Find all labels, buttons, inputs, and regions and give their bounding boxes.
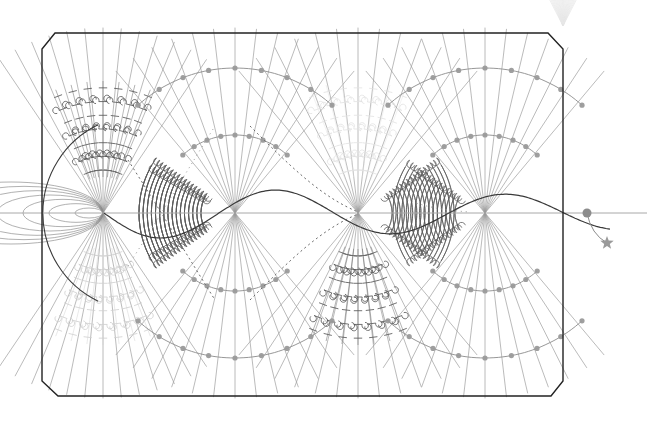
arc-node-dot xyxy=(497,287,502,292)
ray-line xyxy=(192,213,235,393)
arc-node-dot xyxy=(232,355,237,360)
barb-curl xyxy=(321,318,327,324)
arc-node-dot xyxy=(454,138,459,143)
ray-line xyxy=(85,29,103,213)
ray-line xyxy=(235,213,318,378)
arc-node-dot xyxy=(135,103,140,108)
arc-node-dot xyxy=(284,75,289,80)
barb-curl xyxy=(124,128,130,134)
barb-tick xyxy=(87,309,95,310)
barb-curl xyxy=(93,322,99,328)
barb-curl xyxy=(331,292,337,298)
ray-line xyxy=(235,213,298,387)
arc-node-dot xyxy=(180,75,185,80)
barb-curl xyxy=(63,133,69,139)
barb-tick xyxy=(107,282,115,283)
barb-tick xyxy=(345,282,353,283)
barb-tick xyxy=(90,143,98,144)
arc-node-dot xyxy=(259,68,264,73)
barb-curl xyxy=(327,158,333,164)
barb-tick xyxy=(87,116,95,117)
ray-line xyxy=(103,29,121,213)
barb-tick xyxy=(379,146,387,149)
arc-node-dot xyxy=(192,144,197,149)
arc-node-dot xyxy=(430,268,435,273)
barb-tick xyxy=(362,282,370,283)
arc-node-dot xyxy=(456,353,461,358)
barb-curl xyxy=(382,261,388,267)
arc-node-dot xyxy=(430,75,435,80)
arc-node-dot xyxy=(579,103,584,108)
arc-node-dot xyxy=(579,318,584,323)
ray-line xyxy=(485,213,568,378)
layer-ghost-artifact xyxy=(548,0,577,26)
arc-node-dot xyxy=(442,277,447,282)
ray-line xyxy=(103,213,121,397)
arc-node-dot xyxy=(329,103,334,108)
arc-node-dot xyxy=(534,75,539,80)
arc-node-dot xyxy=(218,287,223,292)
arc-node-dot xyxy=(232,132,237,137)
barb-tick xyxy=(329,146,337,149)
arc-node-dot xyxy=(232,288,237,293)
barb-curl xyxy=(53,107,59,113)
barb-curl xyxy=(320,290,326,296)
arc-node-dot xyxy=(180,346,185,351)
layer-star-marker xyxy=(587,213,614,249)
arc-node-dot xyxy=(510,138,515,143)
barb-curl xyxy=(135,130,141,136)
arc-node-dot xyxy=(385,318,390,323)
arc-node-dot xyxy=(135,318,140,323)
barb-tick xyxy=(90,282,98,283)
arc-node-dot xyxy=(510,283,515,288)
arc-node-dot xyxy=(218,134,223,139)
arc-node-dot xyxy=(157,87,162,92)
ray-line xyxy=(15,213,103,376)
barb-curl xyxy=(361,97,367,103)
barb-tick xyxy=(342,116,350,117)
barb-tick xyxy=(111,116,119,117)
ray-line xyxy=(442,33,485,213)
barb-tick xyxy=(379,277,387,280)
arc-node-dot xyxy=(308,87,313,92)
barb-tick xyxy=(342,309,350,310)
arc-node-dot xyxy=(407,334,412,339)
arc-node-dot xyxy=(180,268,185,273)
barb-curl xyxy=(335,321,341,327)
ray-line xyxy=(485,39,548,213)
arc-node-dot xyxy=(157,334,162,339)
ray-line xyxy=(485,213,528,393)
arc-node-dot xyxy=(534,346,539,351)
ray-line xyxy=(442,213,485,393)
arc-node-dot xyxy=(442,144,447,149)
barb-curl xyxy=(348,322,354,328)
arc-node-dot xyxy=(206,353,211,358)
arc-node-dot xyxy=(509,353,514,358)
arc-node-dot xyxy=(206,68,211,73)
arc-node-dot xyxy=(482,355,487,360)
barb-curl xyxy=(65,290,71,296)
barb-curl xyxy=(147,312,153,318)
ray-line xyxy=(485,213,548,387)
barb-tick xyxy=(369,88,377,89)
arc-node-dot xyxy=(273,277,278,282)
arc-node-dot xyxy=(259,353,264,358)
barb-tick xyxy=(389,303,397,306)
arc-node-dot xyxy=(247,287,252,292)
arc-node-dot xyxy=(407,87,412,92)
ray-line xyxy=(235,39,298,213)
arc-node-dot xyxy=(468,287,473,292)
ray-line xyxy=(85,213,103,397)
barb-curl xyxy=(310,316,316,322)
arc-band-line-mirror xyxy=(393,160,410,259)
ray-line xyxy=(295,213,358,387)
barb-tick xyxy=(54,95,62,98)
arc-node-dot xyxy=(308,334,313,339)
barb-tick xyxy=(362,143,370,144)
ray-line xyxy=(235,48,318,213)
arc-node-dot xyxy=(247,134,252,139)
barb-tick xyxy=(319,120,327,123)
ray-line xyxy=(103,50,191,213)
arc-node-dot xyxy=(180,152,185,157)
star-icon xyxy=(600,236,613,249)
